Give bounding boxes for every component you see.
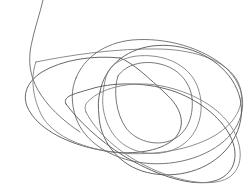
scribble-artwork	[0, 0, 252, 195]
canvas-background	[0, 0, 252, 195]
drawing-canvas	[0, 0, 252, 195]
